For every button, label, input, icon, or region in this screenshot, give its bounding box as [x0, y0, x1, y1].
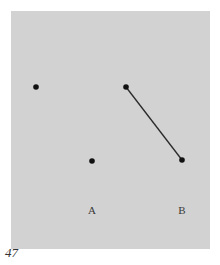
- point-b1: [123, 84, 129, 90]
- segment-b1-b2: [126, 87, 182, 160]
- figure-number: 47: [5, 245, 18, 261]
- point-a1: [33, 84, 39, 90]
- group-label-b: B: [178, 204, 185, 216]
- diagram-canvas: [0, 0, 220, 265]
- point-b2: [179, 157, 185, 163]
- group-label-a: A: [88, 204, 96, 216]
- point-a2: [89, 158, 95, 164]
